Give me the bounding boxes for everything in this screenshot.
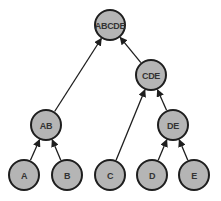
- node-d: D: [137, 160, 167, 190]
- edge-d-to-de: [158, 140, 167, 160]
- tree-diagram: ABCDECDEABDEABCDE: [0, 0, 221, 201]
- node-label: A: [21, 171, 28, 181]
- node-label: D: [149, 171, 156, 181]
- node-b: B: [52, 160, 82, 190]
- node-label: CDE: [142, 71, 160, 81]
- edge-b-to-ab: [52, 140, 61, 160]
- edge-a-to-ab: [30, 140, 39, 161]
- node-label: C: [107, 171, 114, 181]
- node-abcde: ABCDE: [95, 10, 126, 40]
- node-de: DE: [158, 110, 188, 140]
- node-label: E: [191, 171, 197, 181]
- edges: [30, 37, 187, 160]
- node-label: B: [64, 171, 71, 181]
- node-label: AB: [40, 121, 53, 131]
- edge-de-to-cde: [157, 90, 166, 111]
- node-cde: CDE: [136, 60, 166, 90]
- node-e: E: [179, 160, 209, 190]
- node-label: DE: [167, 121, 179, 131]
- edge-cde-to-abcde: [120, 37, 141, 62]
- edge-e-to-de: [179, 140, 188, 160]
- node-a: A: [9, 160, 39, 190]
- node-ab: AB: [31, 110, 61, 140]
- nodes: ABCDECDEABDEABCDE: [9, 10, 209, 190]
- edge-ab-to-abcde: [55, 38, 102, 111]
- edge-c-to-cde: [116, 90, 145, 160]
- node-label: ABCDE: [95, 21, 126, 31]
- node-c: C: [95, 160, 125, 190]
